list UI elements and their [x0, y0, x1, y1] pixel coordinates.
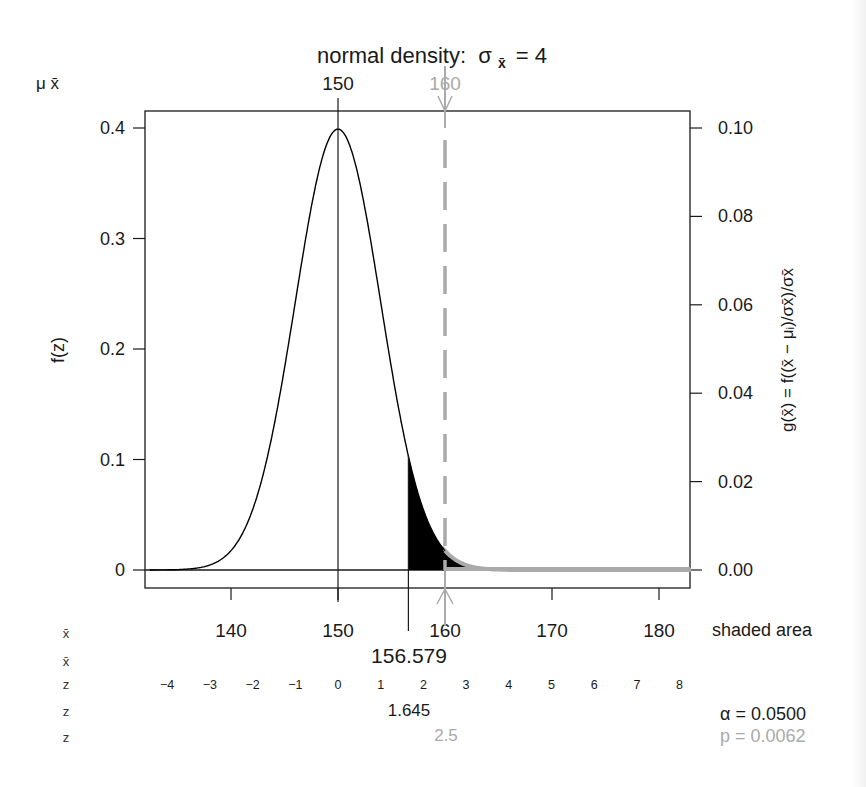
left-axis-tick-label: 0	[115, 560, 125, 580]
margin-row-label: x̄	[63, 626, 70, 641]
p-value: p = 0.0062	[720, 726, 806, 746]
margin-row-label: x̄	[63, 654, 70, 669]
z-tick-label: 3	[463, 678, 470, 692]
margin-row-label: z	[63, 677, 70, 692]
z-tick-label: −1	[288, 678, 302, 692]
z-scale: −4−3−2−1012345678	[160, 678, 683, 692]
z-tick-label: 1	[377, 678, 384, 692]
left-axis-tick-label: 0.4	[100, 118, 125, 138]
top-axis-tick-label: 150	[322, 73, 354, 94]
critical-xbar-value: 156.579	[371, 644, 447, 667]
right-axis-tick-label: 0.10	[718, 118, 753, 138]
z-tick-label: 0	[335, 678, 342, 692]
bottom-axis-tick-label: 170	[536, 620, 568, 641]
z-tick-label: 7	[633, 678, 640, 692]
right-axis-tick-label: 0.04	[718, 383, 753, 403]
z-tick-label: 2	[420, 678, 427, 692]
right-axis-tick-label: 0.06	[718, 295, 753, 315]
z-tick-label: −4	[160, 678, 174, 692]
normal-density-chart: normal density: σ x̄ = 4 μ x̄ 00.10.20.3…	[0, 0, 866, 787]
margin-row-label: z	[63, 730, 70, 745]
z-tick-label: 5	[548, 678, 555, 692]
observed-z-value: 2.5	[434, 726, 458, 745]
right-axis-tick-label: 0.08	[718, 206, 753, 226]
top-axis: 150160	[322, 73, 461, 94]
density-curve	[150, 129, 445, 570]
left-axis-tick-label: 0.1	[100, 450, 125, 470]
right-axis-tick-label: 0.02	[718, 472, 753, 492]
right-axis-tick-label: 0.00	[718, 560, 753, 580]
rejection-region-shading	[408, 456, 691, 570]
left-axis-tick-label: 0.2	[100, 339, 125, 359]
right-axis: 0.000.020.040.060.080.10	[690, 118, 753, 580]
z-tick-label: 8	[676, 678, 683, 692]
bottom-axis-tick-label: 180	[643, 620, 675, 641]
shaded-area-label: shaded area	[712, 620, 813, 640]
alpha-value: α = 0.0500	[720, 704, 806, 724]
z-tick-label: −2	[245, 678, 259, 692]
margin-row-label: z	[63, 704, 70, 719]
chart-title: normal density: σ x̄ = 4	[317, 43, 547, 73]
left-axis-label: f(z)	[48, 337, 68, 363]
top-axis-row-label: μ x̄	[36, 74, 60, 93]
margin-row-labels: x̄x̄zzz	[63, 626, 70, 745]
plot-content	[150, 66, 691, 631]
z-tick-label: 6	[591, 678, 598, 692]
z-tick-label: 4	[505, 678, 512, 692]
right-axis-label: g(x̄) = f((x̄ − μᵢ)/σx̄)/σx̄	[778, 268, 797, 432]
z-tick-label: −3	[203, 678, 217, 692]
left-axis-tick-label: 0.3	[100, 229, 125, 249]
bottom-axis-tick-label: 150	[322, 620, 354, 641]
bottom-axis-tick-label: 140	[215, 620, 247, 641]
left-axis: 00.10.20.30.4	[100, 118, 145, 580]
critical-z-value: 1.645	[388, 701, 431, 720]
